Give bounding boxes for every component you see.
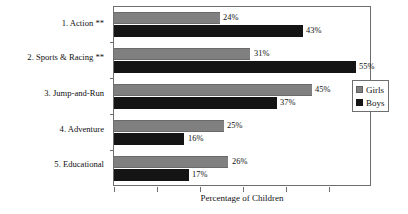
bar-boys-sports xyxy=(114,61,356,73)
bar-boys-jump-and-run xyxy=(114,97,277,109)
girls-swatch-icon xyxy=(356,86,363,93)
legend-item-girls: Girls xyxy=(356,83,385,96)
legend-label-boys: Boys xyxy=(366,98,385,108)
bar-value-boys-jump-and-run: 37% xyxy=(280,97,295,109)
bar-girls-sports xyxy=(114,48,250,60)
bar-girls-educational xyxy=(114,156,228,168)
bar-value-girls-action: 24% xyxy=(223,12,238,24)
y-axis-tick xyxy=(110,150,114,151)
bar-boys-educational xyxy=(114,169,189,181)
y-axis-label-2: 2. Sports & Racing ** xyxy=(27,52,104,62)
bar-value-boys-sports: 55% xyxy=(359,61,374,73)
legend: Girls Boys xyxy=(352,80,389,112)
y-axis-label-5: 5. Educational xyxy=(54,159,104,169)
bar-value-boys-educational: 17% xyxy=(192,169,207,181)
y-axis-tick xyxy=(110,114,114,115)
boys-swatch-icon xyxy=(356,99,363,106)
bar-value-girls-sports: 31% xyxy=(254,48,269,60)
x-axis-tick xyxy=(200,187,201,192)
bar-value-boys-adventure: 16% xyxy=(188,133,203,145)
plot-area: 24% 43% 31% 55% 45% 37% 25% 16% 26% 17% xyxy=(113,6,371,186)
bar-value-girls-adventure: 25% xyxy=(227,120,242,132)
bar-chart: 1. Action ** 2. Sports & Racing ** 3. Ju… xyxy=(0,0,408,214)
bar-girls-jump-and-run xyxy=(114,84,312,96)
x-axis-tick xyxy=(329,187,330,192)
y-axis-label-4: 4. Adventure xyxy=(60,124,104,134)
x-axis-tick xyxy=(286,187,287,192)
y-axis-labels: 1. Action ** 2. Sports & Racing ** 3. Ju… xyxy=(0,0,110,214)
bar-value-girls-jump-and-run: 45% xyxy=(315,84,330,96)
legend-label-girls: Girls xyxy=(366,85,384,95)
x-axis-tick xyxy=(157,187,158,192)
y-axis-tick xyxy=(110,42,114,43)
x-axis-title: Percentage of Children xyxy=(113,193,371,203)
y-axis-label-1: 1. Action ** xyxy=(62,18,104,28)
bar-value-girls-educational: 26% xyxy=(232,156,247,168)
bar-boys-action xyxy=(114,25,303,37)
x-axis-tick xyxy=(243,187,244,192)
bar-value-boys-action: 43% xyxy=(306,25,321,37)
x-axis-tick xyxy=(114,187,115,192)
y-axis-tick xyxy=(110,78,114,79)
bar-boys-adventure xyxy=(114,133,184,145)
y-axis-label-3: 3. Jump-and-Run xyxy=(44,88,104,98)
legend-item-boys: Boys xyxy=(356,96,385,109)
bar-girls-action xyxy=(114,12,220,24)
bar-girls-adventure xyxy=(114,120,224,132)
